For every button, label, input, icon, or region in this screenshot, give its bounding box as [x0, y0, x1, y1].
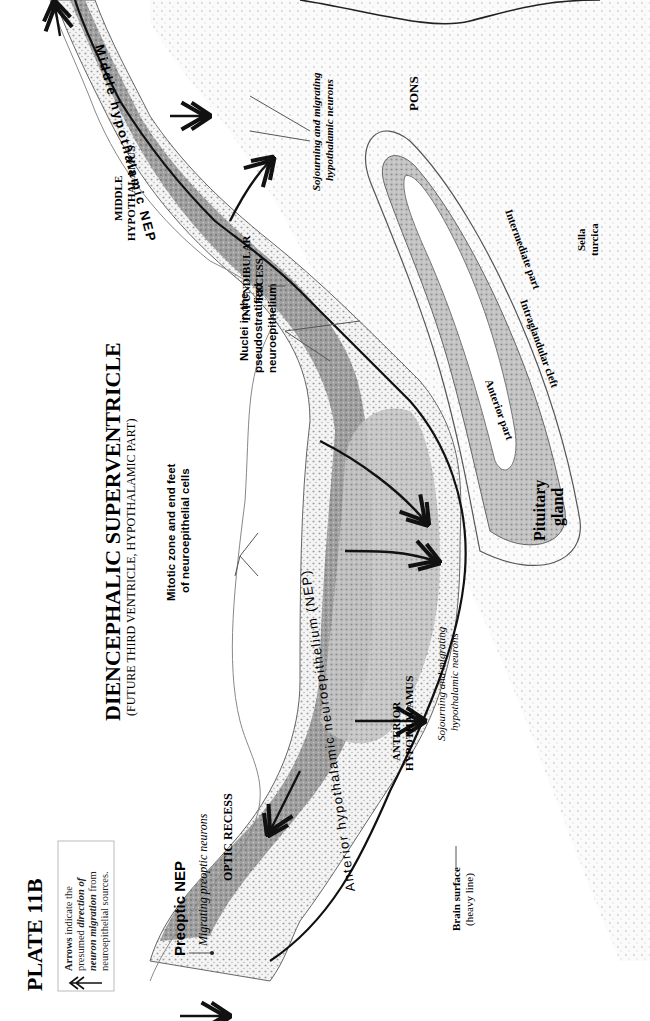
- label-sojourn-b-2: hypothalamic neurons: [323, 79, 335, 181]
- svg-text:neuron migration from: neuron migration from: [87, 871, 98, 971]
- label-sella-2: turcica: [588, 223, 600, 256]
- plate-title: PLATE 11B: [22, 878, 47, 991]
- label-brain-surface-2: (heavy line): [463, 873, 476, 926]
- label-mitotic-2: of neuroepithelial cells: [179, 468, 191, 593]
- label-migrating-preoptic: Migrating preoptic neurons: [196, 813, 210, 947]
- legend-text-3b: from: [87, 871, 98, 894]
- legend-text-2a: presumed: [75, 928, 86, 971]
- legend-text-2b: direction of: [75, 876, 86, 927]
- label-pituitary-2: gland: [549, 488, 567, 526]
- label-sojourn-a-1: Sojourning and migrating: [435, 626, 447, 741]
- label-sella-1: Sella: [575, 228, 587, 251]
- histology-plate: PLATE 11B Arrows indicate the presumed d…: [0, 0, 650, 1021]
- label-nuclei-3: neuroepithelium: [266, 284, 278, 373]
- label-sojourn-b-1: Sojourning and migrating: [310, 72, 322, 191]
- legend-box: Arrows indicate the presumed direction o…: [58, 841, 114, 991]
- legend-text-1a: Arrows: [63, 937, 74, 971]
- svg-text:Arrows indicate the: Arrows indicate the: [63, 886, 74, 971]
- label-sojourn-a-2: hypothalamic neurons: [448, 633, 460, 731]
- label-brain-surface-1: Brain surface: [450, 867, 462, 931]
- label-pituitary-1: Pituitary: [531, 480, 549, 541]
- label-anterior-hypo-2: HYPOTHALAMUS: [403, 676, 415, 771]
- label-middle-hypo-1: MIDDLE: [112, 176, 124, 221]
- diencephalic-heading: DIENCEPHALIC SUPERVENTRICLE: [100, 342, 125, 721]
- legend-text-3a: neuron migration: [87, 894, 98, 971]
- svg-text:presumed direction of: presumed direction of: [75, 876, 86, 971]
- label-pons: PONS: [406, 76, 421, 111]
- label-anterior-hypo-1: ANTERIOR: [390, 701, 402, 761]
- label-optic-recess: OPTIC RECESS: [221, 793, 235, 881]
- plate-stage: PLATE 11B Arrows indicate the presumed d…: [0, 0, 650, 1021]
- diencephalic-subheading: (FUTURE THIRD VENTRICLE, HYPOTHALAMIC PA…: [124, 419, 138, 716]
- legend-text-1b: indicate the: [63, 886, 74, 938]
- legend-text-4: neuroepithelial sources.: [99, 871, 110, 971]
- label-infundibular-1: INFUNDIBULAR: [240, 234, 252, 321]
- label-mitotic-1: Mitotic zone and end feet: [165, 463, 177, 601]
- label-infundibular-2: RECESS: [253, 258, 265, 301]
- label-preoptic-nep: Preoptic NEP: [171, 861, 188, 956]
